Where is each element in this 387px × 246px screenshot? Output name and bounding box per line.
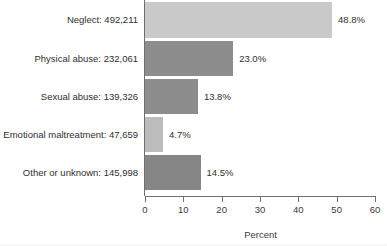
x-axis-title: Percent bbox=[145, 229, 376, 240]
x-axis-tick-label: 0 bbox=[142, 204, 147, 215]
x-axis-tick bbox=[298, 197, 299, 202]
bar bbox=[145, 117, 163, 152]
x-axis-tick-label: 60 bbox=[370, 204, 381, 215]
bar bbox=[145, 41, 233, 76]
category-label: Emotional maltreatment: 47,659 bbox=[0, 129, 138, 140]
bar-value-label: 13.8% bbox=[204, 91, 231, 102]
category-label: Sexual abuse: 139,326 bbox=[0, 91, 138, 102]
chart-row: Sexual abuse: 139,326 13.8% bbox=[0, 79, 387, 114]
x-axis-tick bbox=[145, 197, 146, 202]
chart-row: Physical abuse: 232,061 23.0% bbox=[0, 41, 387, 76]
bar-value-label: 23.0% bbox=[239, 53, 266, 64]
y-axis-line bbox=[144, 0, 145, 196]
category-label: Neglect: 492,211 bbox=[0, 14, 138, 25]
chart-row: Other or unknown: 145,998 14.5% bbox=[0, 155, 387, 190]
chart-row: Neglect: 492,211 48.8% bbox=[0, 2, 387, 38]
chart-row: Emotional maltreatment: 47,659 4.7% bbox=[0, 117, 387, 152]
x-axis-tick bbox=[375, 197, 376, 202]
x-axis-tick-label: 20 bbox=[216, 204, 227, 215]
x-axis-tick-label: 40 bbox=[293, 204, 304, 215]
bar bbox=[145, 79, 198, 114]
category-label: Other or unknown: 145,998 bbox=[0, 167, 138, 178]
x-axis-tick-label: 30 bbox=[255, 204, 266, 215]
x-axis-tick-label: 10 bbox=[178, 204, 189, 215]
bar bbox=[145, 155, 201, 190]
x-axis-tick bbox=[183, 197, 184, 202]
x-axis-tick bbox=[337, 197, 338, 202]
bar-value-label: 48.8% bbox=[338, 14, 365, 25]
bar-value-label: 14.5% bbox=[207, 167, 234, 178]
bar-chart: Neglect: 492,211 48.8% Physical abuse: 2… bbox=[0, 0, 387, 246]
bar bbox=[145, 2, 332, 38]
x-axis-tick bbox=[260, 197, 261, 202]
bar-value-label: 4.7% bbox=[169, 129, 191, 140]
category-label: Physical abuse: 232,061 bbox=[0, 53, 138, 64]
x-axis-tick-label: 50 bbox=[331, 204, 342, 215]
x-axis-tick bbox=[222, 197, 223, 202]
